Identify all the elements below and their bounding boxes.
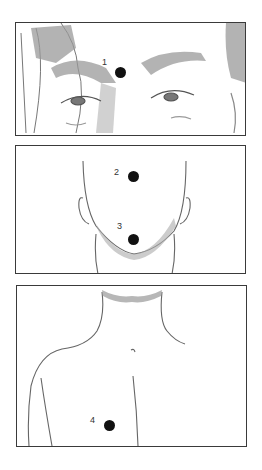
point-marker-1 [115, 67, 126, 78]
point-label-3: 3 [117, 222, 122, 231]
panel-face [15, 22, 246, 136]
face-sketch [16, 23, 246, 136]
panel-chin [15, 145, 246, 274]
point-marker-3 [128, 234, 139, 245]
point-label-1: 1 [102, 58, 107, 67]
point-marker-2 [128, 171, 139, 182]
point-marker-4 [104, 420, 115, 431]
point-label-4: 4 [90, 416, 95, 425]
head-outline [16, 146, 246, 274]
panel-shoulder [16, 285, 247, 447]
shoulder-outline [17, 286, 247, 447]
point-label-2: 2 [114, 168, 119, 177]
